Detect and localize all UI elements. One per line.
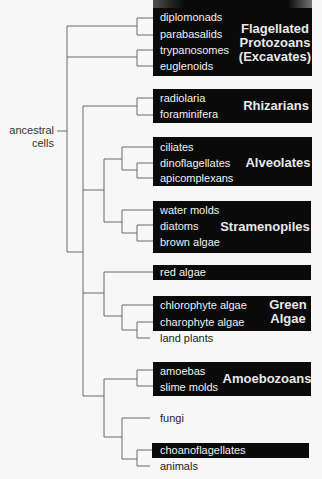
taxon-amoebas: amoebas: [160, 365, 205, 377]
top-fade: [153, 0, 312, 8]
taxon-brown-algae: brown algae: [160, 236, 220, 248]
taxon-charophyte-algae: charophyte algae: [160, 316, 244, 328]
taxon-slime-molds: slime molds: [160, 381, 218, 393]
group-label-stramenopiles: Stramenopiles: [218, 220, 312, 234]
taxon-ciliates: ciliates: [160, 141, 194, 153]
taxon-red-algae: red algae: [160, 266, 206, 278]
root-label-line2: cells: [0, 137, 54, 150]
taxon-land-plants: land plants: [160, 332, 213, 344]
taxon-euglenoids: euglenoids: [160, 60, 213, 72]
taxon-apicomplexans: apicomplexans: [160, 172, 233, 184]
taxon-trypanosomes: trypanosomes: [160, 44, 229, 56]
group-label-amoebozoans: Amoebozoans: [222, 372, 312, 386]
taxon-diatoms: diatoms: [160, 220, 199, 232]
taxon-chlorophyte-algae: chlorophyte algae: [160, 299, 247, 311]
group-label-line: Algae: [265, 312, 311, 326]
group-label-line: Green: [265, 298, 311, 312]
taxon-radiolaria: radiolaria: [160, 92, 205, 104]
group-label-alveolates: Alveolates: [244, 156, 312, 170]
taxon-water-molds: water molds: [160, 204, 219, 216]
group-label-line: Flagellated: [238, 22, 312, 36]
taxon-dinoflagellates: dinoflagellates: [160, 157, 230, 169]
group-label-rhizarians: Rhizarians: [240, 99, 312, 113]
taxon-animals: animals: [160, 460, 198, 472]
group-label-line: Protozoans: [238, 36, 312, 50]
root-label: ancestral cells: [0, 124, 54, 150]
taxon-fungi: fungi: [160, 412, 184, 424]
group-label-green-algae: Green Algae: [265, 298, 311, 326]
taxon-parabasalids: parabasalids: [160, 28, 222, 40]
taxon-foraminifera: foraminifera: [160, 108, 218, 120]
root-label-line1: ancestral: [0, 124, 54, 137]
group-label-excavates: Flagellated Protozoans (Excavates): [238, 22, 312, 64]
taxon-choanoflagellates: choanoflagellates: [160, 444, 246, 456]
group-label-line: (Excavates): [238, 50, 312, 64]
taxon-diplomonads: diplomonads: [160, 11, 222, 23]
